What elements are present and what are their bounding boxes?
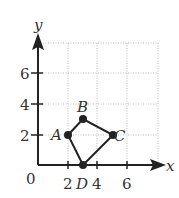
point-a — [64, 131, 72, 139]
y-tick-label-6: 6 — [20, 65, 30, 83]
x-tick-label-4: 4 — [92, 175, 102, 193]
point-d-label: D — [75, 175, 88, 193]
quadrilateral-abcd — [68, 119, 113, 165]
y-axis-label: y — [33, 16, 43, 34]
origin-label: 0 — [26, 170, 36, 188]
x-axis-label: x — [166, 157, 175, 175]
point-c-label: C — [114, 127, 126, 145]
x-tick-label-6: 6 — [122, 175, 132, 193]
point-b-label: B — [76, 98, 88, 116]
x-tick-label-2: 2 — [63, 175, 73, 193]
coordinate-plane-diagram: x y 0 2 4 6 2 4 6 A B C D — [0, 0, 179, 198]
point-d — [79, 161, 87, 169]
y-tick-label-2: 2 — [20, 127, 30, 145]
grid — [38, 43, 158, 165]
point-b — [79, 115, 87, 123]
y-tick-label-4: 4 — [20, 96, 30, 114]
point-a-label: A — [49, 126, 62, 144]
ticks — [31, 73, 127, 169]
